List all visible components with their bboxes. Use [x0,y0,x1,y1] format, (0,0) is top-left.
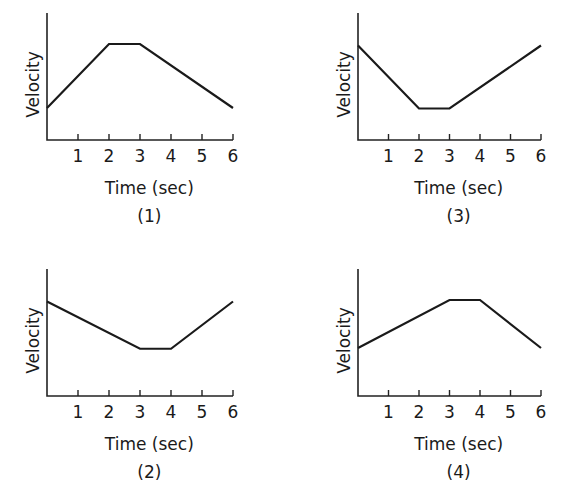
graph-1: 123456Time (sec)(1)Velocity [23,13,238,226]
x-tick-label: 5 [197,402,208,422]
x-tick-label: 2 [104,402,115,422]
x-tick-label: 3 [135,402,146,422]
x-tick-label: 2 [414,402,425,422]
x-tick-label: 6 [228,146,239,166]
y-axis-label: Velocity [23,51,43,118]
velocity-line [47,302,233,349]
x-tick-label: 3 [444,146,455,166]
x-tick-label: 1 [73,402,84,422]
axes [47,269,233,396]
x-tick-label: 3 [135,146,146,166]
y-axis-label: Velocity [334,307,354,374]
graph-3: 123456Time (sec)(3)Velocity [334,13,546,226]
x-axis-label: Time (sec) [413,434,503,454]
x-tick-label: 5 [505,402,516,422]
axes [47,13,233,140]
graph-2: 123456Time (sec)(2)Velocity [23,269,238,482]
x-tick-label: 4 [475,146,486,166]
x-tick-label: 4 [166,402,177,422]
axes [358,13,541,140]
x-tick-label: 5 [505,146,516,166]
x-tick-label: 3 [444,402,455,422]
y-axis-label: Velocity [334,51,354,118]
y-axis-label: Velocity [23,307,43,374]
x-tick-label: 6 [536,402,547,422]
x-tick-label: 6 [228,402,239,422]
graph-caption: (2) [137,462,161,482]
x-tick-label: 4 [475,402,486,422]
x-tick-label: 1 [383,402,394,422]
velocity-line [358,300,541,348]
x-tick-label: 1 [73,146,84,166]
x-tick-label: 5 [197,146,208,166]
x-tick-label: 1 [383,146,394,166]
graph-4: 123456Time (sec)(4)Velocity [334,269,546,482]
x-tick-label: 4 [166,146,177,166]
x-tick-label: 2 [104,146,115,166]
graph-caption: (1) [137,206,161,226]
graph-caption: (3) [447,206,471,226]
x-axis-label: Time (sec) [104,434,194,454]
x-tick-label: 6 [536,146,547,166]
velocity-line [47,44,233,108]
x-axis-label: Time (sec) [104,178,194,198]
velocity-time-graphs: 123456Time (sec)(1)Velocity 123456Time (… [0,0,577,499]
x-axis-label: Time (sec) [413,178,503,198]
velocity-line [358,46,541,109]
x-tick-label: 2 [414,146,425,166]
graph-caption: (4) [447,462,471,482]
